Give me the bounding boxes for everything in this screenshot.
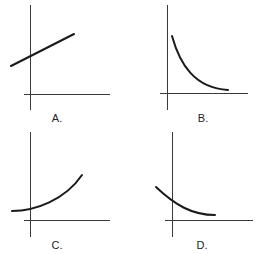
graph-c-curve bbox=[12, 175, 82, 211]
graph-a-curve bbox=[11, 34, 74, 66]
graph-d-label: D. bbox=[197, 239, 208, 251]
graph-d-curve bbox=[156, 187, 215, 215]
graph-b-label: B. bbox=[198, 112, 208, 124]
graph-c: C. bbox=[12, 132, 110, 251]
graph-b-curve bbox=[172, 36, 228, 90]
graph-a: A. bbox=[11, 5, 110, 124]
graph-c-label: C. bbox=[52, 239, 63, 251]
graph-b: B. bbox=[160, 5, 248, 124]
graph-d: D. bbox=[156, 132, 253, 251]
graph-panels: A. B. C. D. bbox=[0, 0, 262, 254]
graph-a-label: A. bbox=[52, 112, 62, 124]
